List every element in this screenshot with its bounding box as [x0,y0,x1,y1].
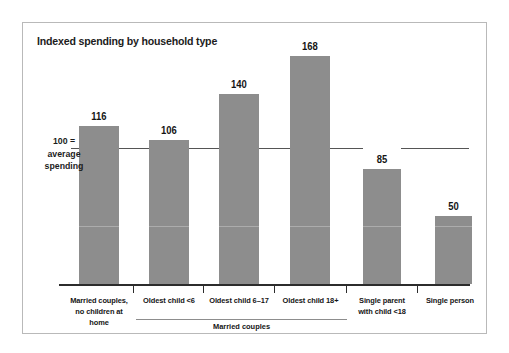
bar-single-person [435,216,472,284]
category-label-oldest-child-under-6: Oldest child <6 [136,295,203,306]
bar-fold-artifact [219,226,259,227]
category-label-line: Oldest child 18+ [277,295,345,306]
axis-tick [203,286,204,293]
category-label-line: Oldest child 6–17 [206,295,273,306]
reference-line-segment-4 [329,148,363,149]
bar-fold-artifact [435,226,472,227]
reference-line-segment-5 [401,148,469,149]
bar-value-label: 85 [365,153,399,165]
category-label-line: no children at home [66,306,133,328]
category-label-oldest-child-18-plus: Oldest child 18+ [277,295,345,306]
axis-tick [346,286,347,293]
bar-fold-artifact [363,226,401,227]
group-bracket-line [136,319,347,320]
bar-value-label: 116 [81,110,117,122]
bar-value-label: 50 [437,200,470,212]
category-label-married-no-children: Married couples,no children at home [66,295,133,328]
x-axis-baseline [59,284,470,286]
reference-line-label-line-3: spending [37,160,90,173]
category-label-line: Single parent [349,295,414,306]
bar-fold-artifact [290,226,330,227]
reference-line-label-line-2: average [37,148,90,161]
axis-tick [417,286,418,293]
bar-oldest-child-18-plus [290,56,330,284]
category-label-line: with child <18 [349,306,414,317]
category-label-oldest-child-6-17: Oldest child 6–17 [206,295,273,306]
reference-line-segment-3 [257,148,290,149]
bar-fold-artifact [79,226,119,227]
reference-line-label: 100 =averagespending [37,135,90,173]
group-bracket-label: Married couples [143,322,339,331]
bar-fold-artifact [149,226,189,227]
category-label-single-parent: Single parentwith child <18 [349,295,414,317]
reference-line-segment-1 [119,148,149,149]
axis-tick [274,286,275,293]
bar-oldest-child-6-17 [219,94,259,284]
axis-tick [133,286,134,293]
category-label-line: Single person [419,295,480,306]
category-label-line: Married couples, [66,295,133,306]
category-label-single-person: Single person [419,295,480,306]
bar-value-label: 140 [221,78,257,90]
reference-line-segment-2 [189,148,219,149]
reference-line-label-line-1: 100 = [37,135,90,148]
bar-value-label: 106 [151,124,187,136]
bar-oldest-child-under-6 [149,140,189,284]
bar-single-parent [363,169,401,284]
plot-area: 116 106 140 168 85 50 100 =averagespendi… [23,23,486,333]
bar-value-label: 168 [292,40,328,52]
category-label-line: Oldest child <6 [136,295,203,306]
chart-figure: Indexed spending by household type 116 1… [22,22,487,334]
